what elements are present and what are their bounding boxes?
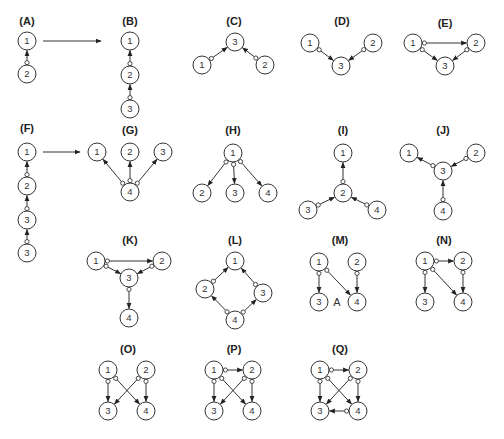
node-4: 4	[121, 183, 139, 201]
panel-label: (N)	[436, 234, 452, 246]
panel-j: (J)1234	[400, 124, 485, 220]
panel-a: (A)12	[18, 15, 36, 83]
panel-p: (P)1234	[205, 343, 261, 420]
node-label: 1	[340, 147, 345, 158]
panel-label: (L)	[228, 234, 242, 246]
panel-label: (O)	[120, 343, 136, 355]
node-label: 3	[317, 405, 322, 416]
panel-label: (D)	[334, 15, 350, 27]
node-1: 1	[18, 143, 36, 161]
panel-label: (F)	[20, 122, 34, 134]
node-label: 4	[143, 405, 148, 416]
edge-tail-circle-icon	[212, 379, 216, 383]
edge-1-to-3	[234, 167, 235, 184]
edge-tail-circle-icon	[128, 96, 132, 100]
edge-tail-circle-icon	[345, 409, 349, 413]
node-label: 2	[355, 364, 360, 375]
edge-tail-circle-icon	[128, 179, 132, 183]
node-label: 3	[232, 36, 237, 47]
node-label: 3	[338, 60, 343, 71]
node-label: 1	[406, 147, 411, 158]
node-label: 3	[442, 60, 447, 71]
edge-tail-circle-icon	[127, 287, 131, 291]
node-2: 2	[243, 361, 261, 379]
node-2: 2	[256, 56, 274, 74]
node-1: 1	[87, 252, 105, 270]
node-label: 3	[160, 146, 165, 157]
node-4: 4	[243, 402, 261, 420]
edge-tail-circle-icon	[231, 162, 235, 166]
node-label: 1	[24, 35, 29, 46]
node-label: 1	[307, 37, 312, 48]
node-label: 3	[422, 296, 427, 307]
node-label: 2	[473, 37, 478, 48]
node-label: 2	[199, 187, 204, 198]
edge-tail-circle-icon	[25, 240, 29, 244]
node-1: 1	[224, 144, 242, 162]
edge-1-to-3	[321, 51, 333, 60]
node-2: 2	[121, 143, 139, 161]
node-label: 2	[202, 283, 207, 294]
node-4: 4	[434, 202, 452, 220]
edge-tail-circle-icon	[25, 207, 29, 211]
node-3: 3	[310, 293, 328, 311]
edge-1-to-3	[108, 267, 120, 273]
node-4: 4	[259, 184, 277, 202]
node-label: 2	[249, 364, 254, 375]
edge-tail-circle-icon	[128, 62, 132, 66]
edge-tail-circle-icon	[441, 198, 445, 202]
node-label: 4	[232, 314, 237, 325]
node-label: 4	[126, 312, 131, 323]
graph-panels: (A)12(B)123(C)312(D)123(E)123(F)1233(G)1…	[18, 15, 485, 420]
edge-tail-circle-icon	[25, 173, 29, 177]
edge-1-to-4	[242, 163, 262, 186]
panel-label: (A)	[19, 15, 35, 27]
node-label: 1	[105, 364, 110, 375]
node-label: 4	[355, 405, 360, 416]
node-label: 4	[374, 204, 379, 215]
edges	[106, 376, 148, 404]
node-4: 4	[454, 293, 472, 311]
edge-tail-circle-icon	[25, 61, 29, 65]
edge-1-to-4	[223, 380, 245, 404]
panel-label: (Q)	[332, 343, 348, 355]
panel-k: (K)1234	[87, 234, 171, 327]
edge-4-to-3	[245, 300, 256, 311]
nodes: 123	[301, 34, 382, 75]
panel-q: (Q)1234	[311, 343, 367, 420]
node-2: 2	[196, 280, 214, 298]
node-1: 1	[205, 361, 223, 379]
node-4: 4	[349, 402, 367, 420]
node-3: 3	[332, 57, 350, 75]
edge-2-to-3	[349, 51, 362, 61]
edge-tail-circle-icon	[106, 379, 110, 383]
edge-3-to-2	[320, 197, 334, 204]
edges	[211, 267, 257, 314]
edges	[317, 268, 359, 295]
node-label: 3	[211, 405, 216, 416]
node-1: 1	[310, 253, 328, 271]
node-label: 3	[316, 296, 321, 307]
panel-label: (P)	[227, 343, 242, 355]
node-2: 2	[153, 252, 171, 270]
edge-4-to-2	[212, 296, 226, 310]
panel-label: (E)	[438, 17, 453, 29]
node-2: 2	[121, 66, 139, 84]
node-label: 4	[440, 205, 445, 216]
node-1: 1	[226, 252, 244, 270]
node-label: 2	[127, 69, 132, 80]
node-3: 3	[226, 184, 244, 202]
node-4: 4	[120, 309, 138, 327]
panel-c: (C)312	[193, 15, 274, 74]
panel-n: (N)1234	[416, 234, 472, 311]
node-2: 2	[467, 34, 485, 52]
node-3: 3	[434, 162, 452, 180]
node-label: 2	[143, 364, 148, 375]
transition-arrows	[43, 41, 101, 152]
panel-label: (H)	[225, 124, 241, 136]
node-3: 3	[205, 402, 223, 420]
panel-label: (I)	[338, 124, 349, 136]
node-3: 3	[226, 33, 244, 51]
edge-2-to-3	[220, 380, 242, 404]
node-3: 3	[18, 211, 36, 229]
